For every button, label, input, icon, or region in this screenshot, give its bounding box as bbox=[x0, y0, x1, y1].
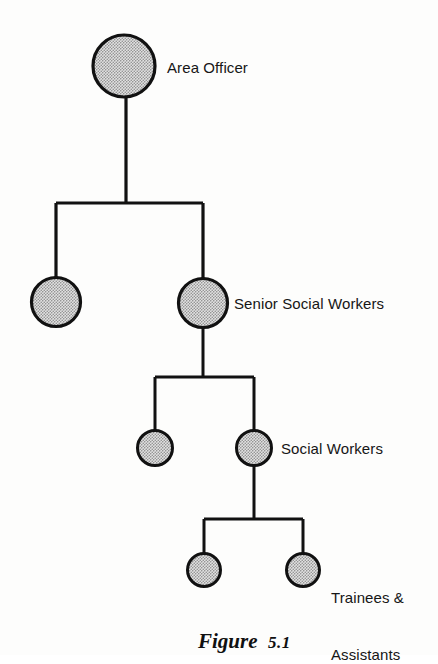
connector-area-officer-to-seniors bbox=[56, 98, 203, 278]
figure-caption: Figure 5.1 bbox=[177, 604, 291, 664]
node-trainee-left bbox=[188, 554, 221, 587]
figure-caption-number: 5.1 bbox=[268, 633, 291, 652]
label-social-workers: Social Workers bbox=[281, 439, 383, 458]
node-social-worker-right bbox=[237, 431, 272, 466]
connector-seniors-to-social-workers bbox=[155, 328, 254, 430]
node-senior-social-worker-left bbox=[32, 278, 81, 327]
figure-caption-word: Figure bbox=[198, 629, 258, 653]
node-trainee-right bbox=[287, 554, 320, 587]
label-trainees-and-assistants: Trainees & Assistants bbox=[331, 550, 404, 664]
label-trainees-line2: Assistants bbox=[331, 645, 404, 664]
label-senior-social-workers: Senior Social Workers bbox=[234, 294, 384, 313]
label-trainees-line1: Trainees & bbox=[331, 588, 404, 607]
connector-lines bbox=[56, 98, 303, 553]
connector-social-workers-to-trainees bbox=[204, 466, 303, 553]
node-social-worker-left bbox=[138, 431, 173, 466]
node-senior-social-worker-right bbox=[179, 279, 228, 328]
figure-caption-spacer bbox=[258, 629, 269, 653]
node-area-officer bbox=[93, 35, 155, 97]
label-area-officer: Area Officer bbox=[167, 58, 248, 77]
